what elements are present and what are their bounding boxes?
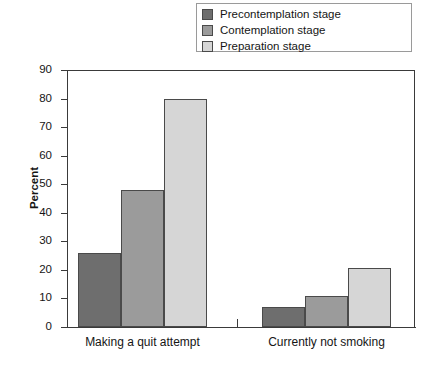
y-tick-0: [61, 327, 67, 328]
bar-contemplation-group2: [305, 296, 348, 327]
x-axis-separator-tick: [237, 319, 238, 327]
x-group-label-making-a-quit-attempt: Making a quit attempt: [53, 336, 233, 348]
bar-contemplation-group1: [121, 190, 164, 327]
x-axis-line: [67, 327, 416, 328]
bar-precontemplation-group1: [78, 253, 121, 327]
bar-precontemplation-group2: [262, 307, 305, 327]
bar-preparation-group1: [164, 99, 207, 327]
bar-series-container: [0, 0, 430, 327]
x-group-label-currently-not-smoking: Currently not smoking: [237, 336, 417, 348]
bar-preparation-group2: [348, 268, 391, 327]
